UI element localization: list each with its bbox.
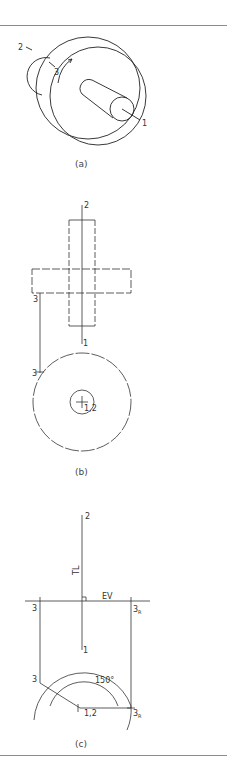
caption-c: (c) (75, 739, 87, 749)
label-arc-3r: 3R (133, 709, 142, 719)
label-c-3r: 3R (133, 605, 142, 615)
descriptive-geometry-diagram: 2 3 1 (a) 2 1 3 3 1,2 (b) (0, 0, 227, 762)
label-ev: EV (102, 592, 113, 601)
knob-end (27, 58, 50, 95)
figure-b-views (32, 205, 131, 451)
label-b-3: 3 (33, 295, 38, 304)
label-a-1: 1 (142, 119, 147, 128)
label-a-3: 3 (54, 68, 59, 77)
label-tl: TL (72, 565, 81, 576)
label-c-1: 1 (83, 646, 88, 655)
disk-back (36, 37, 140, 139)
label-angle: 150° (95, 676, 114, 685)
figure-c-revolution (25, 515, 150, 730)
figure-a-pictorial (26, 37, 146, 145)
label-b-2: 2 (84, 201, 89, 210)
label-a-2: 2 (18, 43, 23, 52)
leader-3 (49, 62, 55, 67)
leader-1 (122, 109, 140, 120)
label-b-circle-3: 3 (32, 369, 37, 378)
label-c-12: 1,2 (84, 709, 97, 718)
radius-line (40, 683, 80, 708)
angle-arc (50, 682, 118, 706)
outer-arc (34, 673, 131, 730)
label-b-1: 1 (83, 339, 88, 348)
caption-b: (b) (75, 467, 88, 477)
caption-a: (a) (75, 159, 88, 169)
label-arc-3: 3 (32, 675, 37, 684)
shaft-back-end (80, 80, 92, 94)
label-b-12: 1,2 (84, 404, 97, 413)
label-c-3: 3 (32, 604, 37, 613)
disk-front (50, 47, 146, 145)
shaft-top-edge (92, 80, 127, 98)
disk-edge-view (32, 269, 131, 293)
leader-2 (26, 47, 32, 50)
label-c-2: 2 (85, 512, 90, 521)
shaft-bottom-edge (82, 94, 113, 118)
